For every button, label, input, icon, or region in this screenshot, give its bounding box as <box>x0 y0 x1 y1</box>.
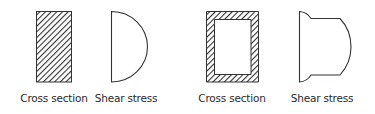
solid-cross-section <box>37 12 72 83</box>
stepped-shear-profile <box>300 12 352 83</box>
cross-section-label-2: Cross section <box>198 92 265 104</box>
hollow-cross-section <box>207 12 259 83</box>
shear-stress-label-1: Shear stress <box>95 92 158 104</box>
cross-section-label-1: Cross section <box>20 92 87 104</box>
shear-stress-label-2: Shear stress <box>291 92 354 104</box>
parabolic-shear-profile <box>112 12 148 83</box>
